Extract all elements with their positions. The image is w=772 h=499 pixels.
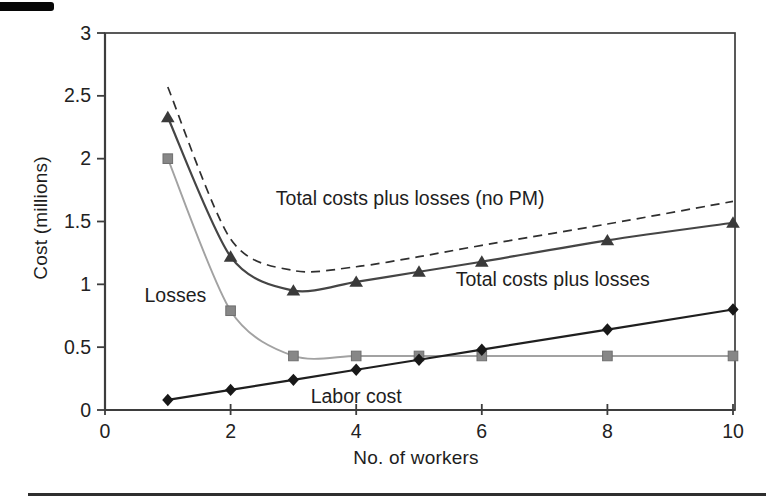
x-axis-title: No. of workers: [353, 447, 478, 469]
diamond-marker-labor-cost: [727, 303, 738, 315]
square-marker-losses: [163, 154, 173, 164]
square-marker-losses: [728, 351, 738, 361]
y-tick-label: 2: [80, 147, 91, 169]
x-tick-label: 4: [351, 420, 362, 442]
square-marker-losses: [351, 351, 361, 361]
chart-plot: 024681000.511.522.53Total costs plus los…: [0, 0, 772, 499]
triangle-marker-total-costs-plus-losses: [726, 216, 740, 227]
x-tick-label: 6: [476, 420, 487, 442]
series-line-total-costs-plus-losses-no-pm: [168, 87, 733, 272]
x-tick-label: 8: [602, 420, 613, 442]
y-tick-label: 1: [80, 273, 91, 295]
y-tick-label: 0.5: [64, 336, 91, 358]
y-tick-label: 0: [80, 399, 91, 421]
page: 024681000.511.522.53Total costs plus los…: [0, 0, 772, 499]
diamond-marker-labor-cost: [288, 374, 299, 386]
diamond-marker-labor-cost: [162, 394, 173, 406]
y-tick-label: 1.5: [64, 210, 91, 232]
diamond-marker-labor-cost: [602, 323, 613, 335]
x-tick-label: 0: [100, 420, 111, 442]
square-marker-losses: [226, 306, 236, 316]
annotation-labor-cost: Labor cost: [311, 385, 403, 407]
triangle-marker-total-costs-plus-losses: [224, 250, 238, 261]
annotation-total-costs-plus-losses: Total costs plus losses: [456, 268, 650, 290]
annotation-losses: Losses: [144, 284, 206, 306]
y-tick-label: 2.5: [64, 84, 91, 106]
diamond-marker-labor-cost: [225, 384, 236, 396]
y-tick-label: 3: [80, 22, 91, 44]
y-axis-title: Cost (millions): [30, 156, 52, 279]
series-line-labor-cost: [168, 309, 733, 399]
square-marker-losses: [289, 351, 299, 361]
triangle-marker-total-costs-plus-losses: [161, 111, 175, 122]
page-rule-line: [28, 493, 766, 496]
square-marker-losses: [603, 351, 613, 361]
annotation-total-costs-plus-losses-no-pm: Total costs plus losses (no PM): [276, 187, 545, 209]
x-tick-label: 2: [225, 420, 236, 442]
diamond-marker-labor-cost: [351, 364, 362, 376]
x-tick-label: 10: [722, 420, 744, 442]
scan-artifact-bar: [0, 2, 54, 11]
